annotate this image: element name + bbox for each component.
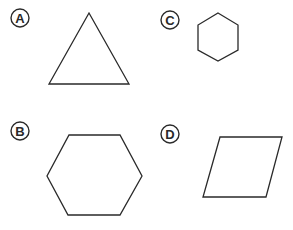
triangle-shape (49, 13, 129, 84)
figure-c: C (161, 11, 238, 61)
parallelogram-shape (203, 137, 282, 197)
label-b: B (15, 124, 24, 139)
label-d: D (165, 127, 174, 142)
large-hexagon-shape (47, 135, 142, 215)
shapes-diagram: A C B D (0, 0, 293, 230)
figure-b: B (11, 122, 142, 215)
figure-a: A (11, 9, 129, 84)
small-hexagon-shape (198, 13, 238, 61)
label-a: A (15, 11, 25, 26)
label-c: C (165, 13, 175, 28)
figure-d: D (161, 125, 282, 197)
